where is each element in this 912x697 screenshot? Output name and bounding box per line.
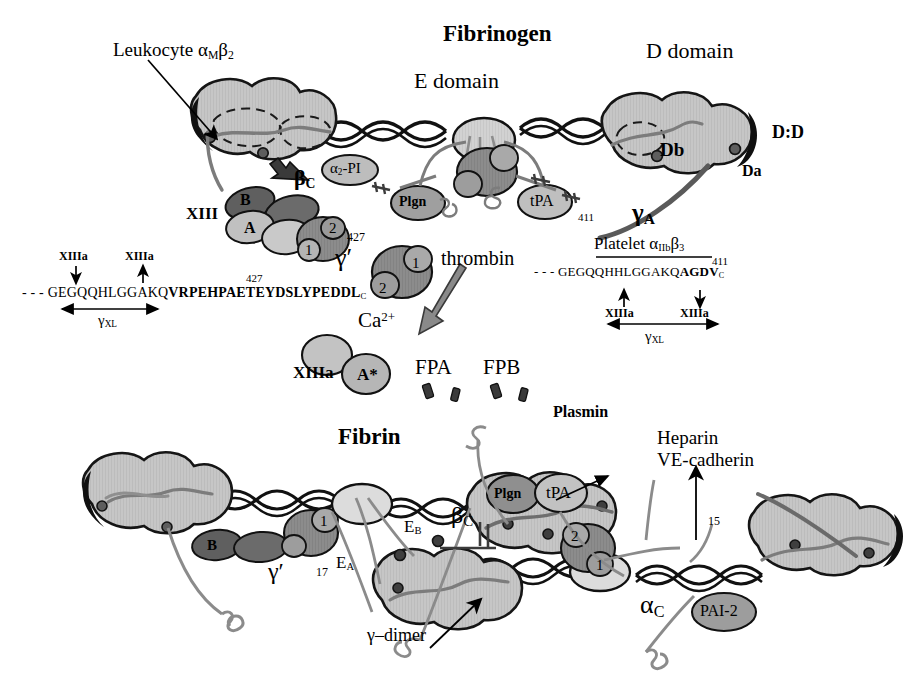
d-domain-bottom-left: [83, 452, 232, 533]
plgn-label-top: Plgn: [399, 195, 426, 209]
crosslink-stub-a2pi: [372, 182, 390, 194]
fibrin-subunit-b: B: [207, 538, 217, 553]
thrombin-label: thrombin: [441, 248, 514, 268]
da-label: Da: [742, 163, 762, 179]
alpha-c-label: αC: [640, 592, 664, 620]
chain-15: [690, 524, 712, 562]
residue-411-right-seq: 411: [712, 256, 728, 267]
d-domain-right: [602, 92, 757, 173]
bottom-left-lobe-1: 1: [320, 514, 328, 529]
residue-427-left-seq: 427: [246, 273, 263, 284]
db-label: Db: [660, 140, 684, 159]
beta-c-label-bottom: βC: [451, 503, 473, 529]
heparin-label: Heparin: [657, 428, 718, 447]
coiled-coil-bottom-4: [636, 566, 762, 591]
xiii-label: XIII: [186, 205, 218, 222]
bottom-right-lobe-2: 2: [571, 529, 579, 544]
xiiia-label-center: XIIIa: [293, 364, 334, 381]
beta-c-label-top: βC: [294, 167, 315, 191]
ve-cadherin-label: VE-cadherin: [657, 450, 754, 469]
xiii-lobe-1: 1: [305, 243, 313, 258]
calcium-label: Ca2+: [358, 310, 395, 331]
protease-cluster-bottom-left: [282, 508, 338, 557]
e-a-label: EA: [336, 554, 354, 573]
e-b-label: EB: [404, 518, 421, 537]
tpa-label-bottom: tPA: [546, 484, 571, 501]
tpa-label-top: tPA: [530, 193, 553, 209]
gamma-a-sequence: - - - GEGQQHHLGGAKQAGDVC: [534, 265, 724, 280]
thrombin-lobe-1: 1: [412, 256, 420, 271]
a-star-label: A*: [357, 366, 378, 383]
residue-411-chain: 411: [578, 212, 594, 223]
bond-node-1: [433, 536, 444, 547]
gamma-xl-span-right: γXL: [645, 329, 664, 345]
gamma-prime-label-top: γ′: [335, 245, 352, 271]
right-xiiia-arrow-label-1: XIIIa: [605, 307, 634, 319]
gamma-dimer-label: γ–dimer: [367, 626, 426, 644]
alpha2-pi-label: α2-PI: [330, 161, 361, 177]
pai2-label: PAI-2: [700, 603, 738, 619]
gamma-a-label: γA: [632, 200, 655, 227]
plgn-label-bottom: Plgn: [494, 487, 521, 501]
leukocyte-receptor-label: Leukocyte αMβ2: [113, 40, 234, 61]
dd-interface-label: D:D: [772, 123, 804, 141]
diagram-artwork: [0, 0, 912, 697]
fpa-label: FPA: [415, 357, 452, 378]
bottom-right-lobe-1: 1: [596, 558, 604, 573]
xiii-lobe-2: 2: [329, 221, 337, 236]
fpb-label: FPB: [483, 357, 520, 378]
gamma-dimer-domains: [373, 548, 522, 629]
d-domain-label: D domain: [646, 40, 733, 62]
plasmin-label: Plasmin: [553, 404, 608, 420]
platelet-receptor-label: Platelet αIIbβ3: [594, 235, 684, 254]
xiii-subunit-a: A: [244, 220, 256, 236]
residue-427-upper: 427: [347, 231, 365, 243]
right-xiiia-arrow-label-2: XIIIa: [680, 307, 709, 319]
thrombin-lobe-2: 2: [379, 281, 387, 296]
gamma-prime-sequence: - - - GEGQQHLGGAKQVRPEHPAETEYDSLYPEDDLC: [22, 286, 367, 301]
fibrinopeptide-fragments: [422, 383, 528, 402]
residue-17: 17: [316, 566, 328, 578]
bond-node-2: [395, 550, 406, 561]
left-xiiia-arrow-label-1: XIIIa: [59, 250, 88, 262]
figure-canvas: Fibrinogen E domain D domain Leukocyte α…: [0, 0, 912, 697]
xiii-subunit-b: B: [240, 192, 251, 208]
gamma-xl-span-left: γXL: [98, 313, 117, 329]
page-title-fibrin: Fibrin: [338, 425, 401, 448]
d-domain-bottom-right: [749, 494, 903, 575]
left-xiiia-arrow-label-2: XIIIa: [125, 250, 154, 262]
residue-15: 15: [708, 515, 720, 527]
page-title-fibrinogen: Fibrinogen: [443, 22, 552, 45]
gamma-prime-label-bottom: γ′: [268, 559, 284, 583]
e-domain-label: E domain: [414, 70, 499, 92]
